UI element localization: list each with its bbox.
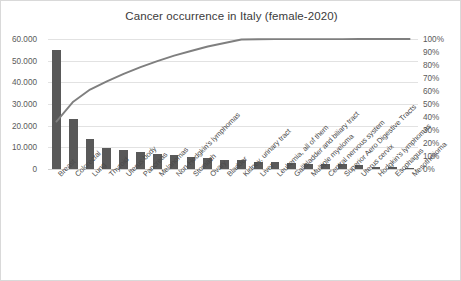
y-axis-right-tick-label: 80% bbox=[423, 61, 461, 70]
y-axis-right-tick-label: 40% bbox=[423, 113, 461, 122]
y-axis-right-tick-label: 90% bbox=[423, 48, 461, 57]
y-axis-left-tick-label: 60.000 bbox=[0, 35, 37, 44]
y-axis-right-tick-label: 100% bbox=[423, 35, 461, 44]
chart-title: Cancer occurrence in Italy (female-2020) bbox=[1, 10, 461, 22]
y-axis-right-tick-label: 70% bbox=[423, 74, 461, 83]
gridline bbox=[48, 61, 418, 62]
y-axis-left-tick-label: 10.000 bbox=[0, 143, 37, 152]
bar bbox=[52, 50, 61, 169]
gridline bbox=[48, 39, 418, 40]
y-axis-left-tick-label: 0 bbox=[0, 165, 37, 174]
y-axis-left-tick-label: 20.000 bbox=[0, 121, 37, 130]
y-axis-left-tick-label: 50.000 bbox=[0, 56, 37, 65]
y-axis-right-tick-label: 50% bbox=[423, 100, 461, 109]
y-axis-left-tick-label: 40.000 bbox=[0, 78, 37, 87]
y-axis-left-tick-label: 30.000 bbox=[0, 100, 37, 109]
y-axis-right-tick-label: 60% bbox=[423, 87, 461, 96]
plot-area bbox=[48, 39, 418, 169]
gridline bbox=[48, 82, 418, 83]
chart-container: Cancer occurrence in Italy (female-2020)… bbox=[0, 0, 461, 281]
gridline bbox=[48, 126, 418, 127]
gridline bbox=[48, 104, 418, 105]
